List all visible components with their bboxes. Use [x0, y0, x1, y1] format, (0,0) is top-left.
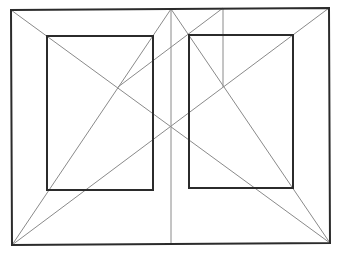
van-de-graaf-canon-diagram: [0, 0, 340, 256]
diagram-svg: [0, 0, 340, 256]
